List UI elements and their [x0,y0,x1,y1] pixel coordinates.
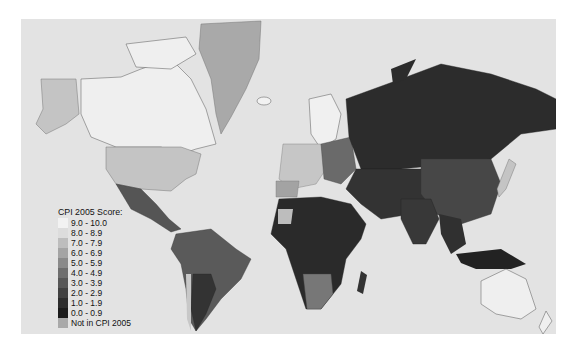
legend-item: 3.0 - 3.9 [58,278,131,288]
region-iceland [257,97,271,105]
legend-item: 7.0 - 7.9 [58,238,131,248]
legend-swatch [58,248,68,258]
legend-swatch [58,218,68,228]
region-chile [186,274,191,331]
legend-item: 5.0 - 5.9 [58,258,131,268]
region-new-zealand [539,311,552,334]
legend-swatch [58,278,68,288]
map-legend: CPI 2005 Score: 9.0 - 10.0 8.0 - 8.9 7.0… [58,207,131,328]
region-madagascar [357,271,367,294]
region-indonesia [456,249,526,269]
legend-swatch [58,258,68,268]
legend-swatch [58,308,68,318]
region-iberia [276,181,299,197]
legend-swatch [58,228,68,238]
region-west-africa-light [278,209,293,224]
legend-swatch [58,318,68,328]
legend-item: 1.0 - 1.9 [58,298,131,308]
legend-item: Not in CPI 2005 [58,318,131,328]
region-canada [81,59,216,154]
region-japan [497,159,516,197]
region-india [401,199,439,244]
region-usa [106,147,201,191]
region-alaska [36,79,79,134]
legend-item: 4.0 - 4.9 [58,268,131,278]
legend-item: 6.0 - 6.9 [58,248,131,258]
legend-swatch [58,268,68,278]
region-russia [346,64,556,169]
region-eastern-europe [321,137,356,184]
region-arctic-islands [126,37,196,69]
legend-title: CPI 2005 Score: [58,207,131,217]
legend-item: 8.0 - 8.9 [58,228,131,238]
legend-swatch [58,298,68,308]
legend-swatch [58,288,68,298]
legend-item: 9.0 - 10.0 [58,218,131,228]
region-southern-africa [303,274,333,309]
region-australia [481,269,536,319]
legend-swatch [58,238,68,248]
legend-item: 2.0 - 2.9 [58,288,131,298]
legend-item: 0.0 - 0.9 [58,308,131,318]
